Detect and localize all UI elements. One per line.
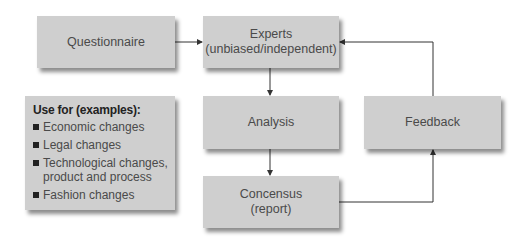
node-questionnaire: Questionnaire — [37, 16, 175, 68]
use-for-item: Technological changes, product and proce… — [33, 156, 169, 184]
use-for-item: Legal changes — [33, 138, 169, 152]
node-analysis: Analysis — [203, 96, 339, 149]
use-for-item-label: Economic changes — [43, 120, 144, 134]
node-experts-subtitle: (unbiased/independent) — [205, 42, 336, 57]
node-experts: Experts (unbiased/independent) — [203, 16, 339, 68]
bullet-square-icon — [33, 142, 39, 148]
node-feedback-label: Feedback — [405, 115, 460, 130]
node-consensus-title: Concensus — [240, 187, 303, 202]
bullet-square-icon — [33, 192, 39, 198]
node-analysis-label: Analysis — [248, 115, 295, 130]
node-questionnaire-label: Questionnaire — [67, 35, 145, 50]
node-consensus-subtitle: (report) — [251, 202, 292, 217]
use-for-item-label: Fashion changes — [43, 188, 134, 202]
node-experts-title: Experts — [250, 27, 292, 42]
use-for-item: Fashion changes — [33, 188, 169, 202]
node-consensus: Concensus (report) — [203, 176, 339, 228]
use-for-item-label: Legal changes — [43, 138, 121, 152]
arrow-consensus-to-feedback — [339, 150, 433, 202]
use-for-item-label: Technological changes, product and proce… — [43, 156, 168, 184]
use-for-box: Use for (examples): Economic changes Leg… — [25, 96, 175, 210]
use-for-item: Economic changes — [33, 120, 169, 134]
arrow-feedback-to-experts — [340, 42, 433, 96]
use-for-heading: Use for (examples): — [33, 103, 169, 117]
use-for-list: Economic changes Legal changes Technolog… — [33, 120, 169, 202]
node-feedback: Feedback — [364, 96, 501, 149]
bullet-square-icon — [33, 160, 39, 166]
bullet-square-icon — [33, 124, 39, 130]
